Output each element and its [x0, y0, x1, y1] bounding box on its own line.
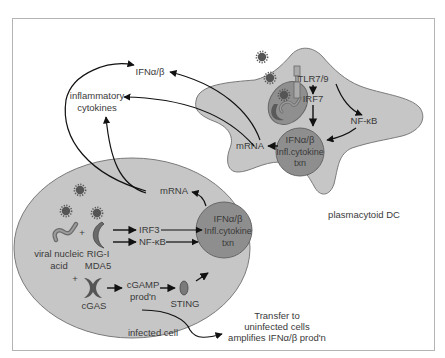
infected-mrna-label: mRNA: [160, 185, 189, 196]
irf7-label: IRF7: [303, 93, 324, 104]
pdc-nucleus-label-2: Infl.cytokine: [276, 147, 324, 157]
cgas-label: cGAS: [82, 300, 107, 311]
viral-label-2: acid: [50, 260, 67, 271]
plus-sign-2: +: [72, 273, 78, 284]
sting-icon: [180, 281, 188, 295]
rig-label-1: RIG-I: [87, 248, 110, 259]
sting-label: STING: [170, 298, 199, 309]
infected-nfkb-label: NF-κB: [139, 236, 166, 247]
transfer-label-2: uninfected cells: [244, 321, 310, 332]
pdc-nucleus-label-3: txn: [294, 158, 306, 168]
pdc-nucleus-label-1: IFNα/β: [286, 134, 315, 145]
pdc-nfkb-label: NF-κB: [351, 115, 378, 126]
diagram-canvas: TLR7/9 IRF7 NF-κB mRNA IFNα/β Infl.cytok…: [0, 0, 445, 358]
cytokines-label-1: inflammatory: [70, 90, 125, 101]
pdc-cell-label: plasmacytoid DC: [328, 209, 400, 220]
infected-nucleus-label-2: Infl.cytokine: [204, 226, 252, 236]
plus-sign-1: +: [79, 227, 85, 238]
cgamp-label-2: prod'n: [130, 291, 156, 302]
irf3-label: IRF3: [139, 224, 160, 235]
transfer-label-3: amplifies IFNα/β prod'n: [228, 332, 326, 343]
viral-label-1: viral nucleic: [34, 248, 84, 259]
transfer-label-1: Transfer to: [254, 310, 300, 321]
tlr79-label: TLR7/9: [297, 73, 328, 84]
infected-nucleus-label-1: IFNα/β: [214, 213, 243, 224]
ifn-label: IFNα/β: [136, 66, 165, 77]
rig-label-2: MDA5: [85, 260, 111, 271]
cytokines-label-2: cytokines: [77, 102, 117, 113]
infected-cell-label: infected cell: [128, 327, 178, 338]
cgamp-label-1: cGAMP: [127, 279, 160, 290]
infected-nucleus-label-3: txn: [222, 238, 234, 248]
